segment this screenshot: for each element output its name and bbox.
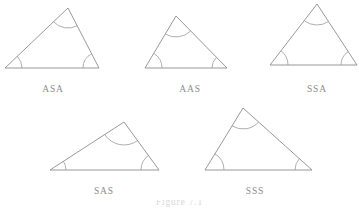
- angle-arc-sss-right: [295, 159, 299, 170]
- figure-sheet: ASA AAS SSA SAS SSS Figure 7.1: [0, 0, 359, 208]
- triangle-outline-aas: [145, 16, 227, 68]
- figure-caption: Figure 7.1: [156, 200, 203, 207]
- angle-arc-aas-left: [154, 53, 162, 68]
- angle-arc-asa-apex: [54, 22, 78, 28]
- triangle-sss: [205, 108, 312, 170]
- angle-arc-ssa-apex: [304, 21, 328, 25]
- angle-arc-ssa-left: [281, 51, 288, 65]
- triangle-congruence-diagram: [0, 0, 359, 208]
- angle-arc-sas-apex: [105, 135, 138, 145]
- angle-arc-sas-right: [141, 155, 148, 170]
- triangle-outline-sss: [205, 108, 312, 170]
- figure-caption-clip: Figure 7.1: [0, 200, 359, 208]
- figure-label-aas: AAS: [179, 84, 201, 94]
- figure-label-ssa: SSA: [307, 84, 327, 94]
- angle-arc-asa-left: [17, 56, 22, 68]
- triangle-sas: [50, 122, 159, 170]
- figure-label-asa: ASA: [42, 84, 64, 94]
- angle-arc-aas-right: [212, 57, 217, 68]
- triangle-asa: [5, 8, 99, 68]
- figure-label-sss: SSS: [246, 186, 265, 196]
- angle-arc-sss-left: [215, 154, 224, 170]
- angle-arc-sss-apex: [232, 122, 259, 129]
- angle-arc-aas-apex: [165, 31, 190, 37]
- angle-arc-sas-left: [63, 161, 66, 170]
- triangle-ssa: [270, 4, 357, 65]
- angle-arc-asa-right: [83, 54, 92, 68]
- angle-arc-ssa-right: [341, 52, 348, 65]
- figure-label-sas: SAS: [94, 186, 114, 196]
- triangle-aas: [145, 16, 227, 68]
